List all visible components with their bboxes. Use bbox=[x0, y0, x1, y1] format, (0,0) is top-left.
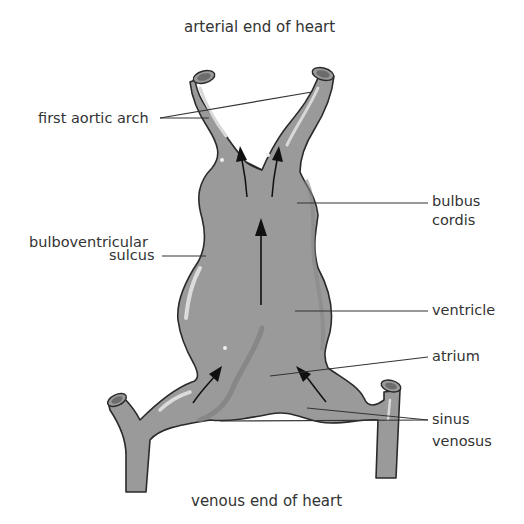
heart-tube-outline bbox=[108, 76, 400, 492]
label-sulcus: sulcus bbox=[109, 245, 155, 266]
highlight-dot-top-right bbox=[266, 153, 270, 157]
label-ventricle: ventricle bbox=[432, 300, 495, 321]
title-arterial-end: arterial end of heart bbox=[184, 17, 335, 38]
label-bulbus: bulbus bbox=[432, 191, 480, 212]
heart-tube-diagram: arterial end of heart first aortic arch … bbox=[0, 0, 524, 524]
leader-first-aortic-arch-right bbox=[160, 92, 312, 118]
highlight-dot-top bbox=[220, 158, 224, 162]
highlight-dot bbox=[223, 346, 227, 350]
label-cordis: cordis bbox=[432, 210, 475, 231]
label-atrium: atrium bbox=[432, 346, 480, 367]
label-venosus: venosus bbox=[432, 431, 492, 452]
title-venous-end: venous end of heart bbox=[191, 491, 342, 512]
label-first-aortic-arch: first aortic arch bbox=[38, 108, 149, 129]
heart-body bbox=[106, 65, 402, 492]
label-sinus: sinus bbox=[432, 409, 470, 430]
